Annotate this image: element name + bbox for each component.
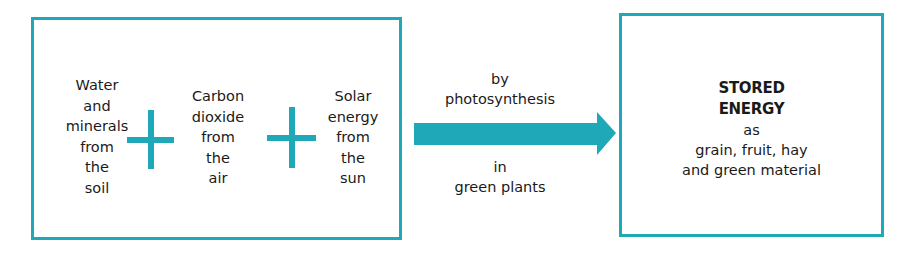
- input-line: the: [303, 148, 403, 169]
- arrow-label-below: in green plants: [430, 157, 570, 197]
- input-line: Water: [47, 75, 147, 96]
- input-line: Solar: [303, 86, 403, 107]
- inputs-box: Water and minerals from the soil Carbon …: [31, 17, 402, 240]
- input-line: the: [168, 148, 268, 169]
- input-line: sun: [303, 168, 403, 189]
- right-arrow-icon: [414, 110, 616, 156]
- input-line: air: [168, 168, 268, 189]
- output-detail-line: and green material: [622, 160, 881, 180]
- arrow-label-line: photosynthesis: [430, 89, 570, 109]
- output-box: STORED ENERGY as grain, fruit, hay and g…: [619, 13, 884, 237]
- output-detail-line: grain, fruit, hay: [622, 140, 881, 160]
- input-line: from: [303, 127, 403, 148]
- input-line: soil: [47, 178, 147, 199]
- input-line: Carbon: [168, 86, 268, 107]
- arrow-label-above: by photosynthesis: [430, 69, 570, 109]
- output-title-line: STORED: [622, 78, 881, 99]
- input-line: from: [168, 127, 268, 148]
- arrow-label-line: by: [430, 69, 570, 89]
- input-line: dioxide: [168, 107, 268, 128]
- output-detail-line: as: [622, 120, 881, 140]
- arrow-label-line: green plants: [430, 177, 570, 197]
- plus-icon: [127, 110, 174, 169]
- output-title-line: ENERGY: [622, 99, 881, 120]
- stored-energy-text: STORED ENERGY as grain, fruit, hay and g…: [622, 78, 881, 180]
- arrow-label-line: in: [430, 157, 570, 177]
- input-line: energy: [303, 107, 403, 128]
